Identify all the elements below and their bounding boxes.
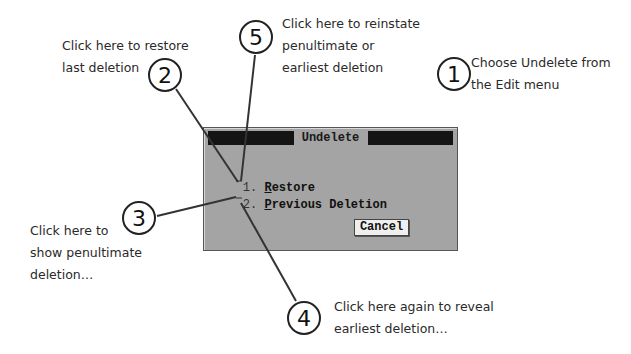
- callout-4-text: Click here again to reveal earliest dele…: [334, 296, 494, 340]
- previous-deletion-option-hotkey: P: [264, 198, 271, 212]
- undelete-dialog: Undelete 1. Restore 2. Previous Deletion…: [203, 127, 458, 251]
- callout-number-4: 4: [287, 301, 321, 335]
- cancel-button[interactable]: Cancel: [354, 219, 409, 236]
- titlebar-fill-left: [208, 131, 294, 145]
- dialog-titlebar[interactable]: Undelete: [208, 131, 453, 145]
- dialog-title: Undelete: [294, 131, 368, 145]
- callout-5-text: Click here to reinstate penultimate or e…: [282, 13, 420, 79]
- callout-number-3: 3: [122, 201, 156, 235]
- callout-1-line-2: the Edit menu: [471, 74, 611, 96]
- callout-4-line-2: earliest deletion…: [334, 318, 494, 340]
- callout-5-line-2: penultimate or: [282, 35, 420, 57]
- previous-deletion-option-label: revious Deletion: [272, 198, 387, 212]
- callout-3-line-3: deletion…: [30, 264, 142, 286]
- callout-number-5: 5: [239, 20, 273, 54]
- callout-5-line-1: Click here to reinstate: [282, 13, 420, 35]
- callout-2-line-1: Click here to restore: [62, 35, 189, 57]
- callout-number-2: 2: [148, 58, 182, 92]
- callout-5-line-3: earliest deletion: [282, 57, 420, 79]
- callout-3-line-2: show penultimate: [30, 242, 142, 264]
- previous-deletion-option-index: 2.: [243, 198, 257, 212]
- callout-1-text: Choose Undelete from the Edit menu: [471, 52, 611, 96]
- titlebar-fill-right: [368, 131, 454, 145]
- callout-3-text: Click here to show penultimate deletion…: [30, 220, 142, 286]
- callout-4-line-1: Click here again to reveal: [334, 296, 494, 318]
- callout-number-1: 1: [437, 57, 471, 91]
- callout-1-line-1: Choose Undelete from: [471, 52, 611, 74]
